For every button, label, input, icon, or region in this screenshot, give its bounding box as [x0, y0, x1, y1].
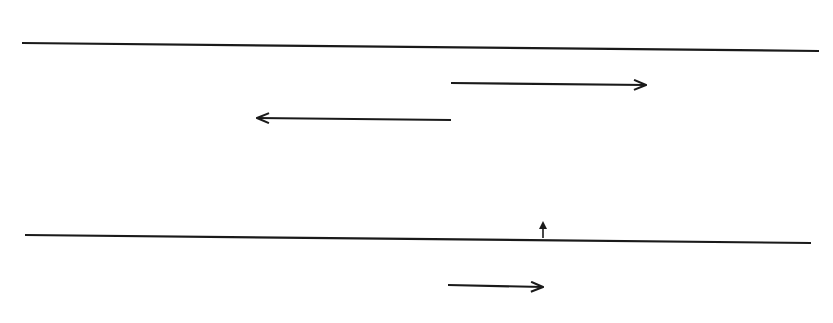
- right-arrow-icon: [448, 285, 543, 287]
- arrow-2-minus-5: [257, 118, 451, 120]
- top-number-line: [22, 43, 819, 51]
- bottom-number-line: [25, 235, 811, 243]
- top-axis-line: [22, 43, 819, 51]
- up-arrow-icon: [539, 221, 547, 238]
- right-arrow-icon: [451, 83, 646, 85]
- arrow-8-minus-5: [451, 83, 646, 85]
- left-arrow-icon: [257, 118, 451, 120]
- number-line-figure: [0, 0, 833, 323]
- bottom-axis-line: [25, 235, 811, 243]
